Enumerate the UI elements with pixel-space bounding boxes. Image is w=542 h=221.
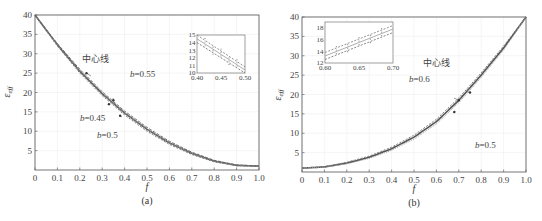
inset-y-tick-label: 12 (317, 59, 325, 67)
arrowhead-icon (458, 99, 460, 101)
x-tick-label: 0.6 (164, 173, 176, 183)
figure: 中心线b=0.45b=0.5b=0.5500.10.20.30.40.50.60… (0, 0, 542, 221)
y-tick-label: 15 (23, 107, 33, 117)
x-tick-label: 0.8 (209, 173, 221, 183)
y-axis-label: εeff (272, 88, 285, 100)
x-tick-label: 0.4 (119, 173, 131, 183)
y-tick-label: 35 (290, 31, 300, 41)
inset-plot: 0.600.650.7012141618 (317, 22, 400, 72)
arrowhead-icon (108, 103, 110, 105)
y-tick-label: 10 (23, 126, 33, 136)
x-tick-label: 0 (33, 173, 38, 183)
x-tick-label: 0.1 (52, 173, 63, 183)
x-tick-label: 0.9 (498, 175, 510, 185)
panel-b-plot: 中心线b=0.6b=0.500.10.20.30.40.50.60.70.80.… (272, 12, 532, 209)
panel-a-plot: 中心线b=0.45b=0.5b=0.5500.10.20.30.40.50.60… (1, 10, 265, 207)
y-tick-label: 30 (23, 49, 33, 59)
y-tick-label: 25 (290, 70, 300, 80)
y-tick-label: 25 (23, 68, 33, 78)
x-tick-label: 0.3 (97, 173, 109, 183)
annotation-label: b=0.5 (97, 130, 118, 140)
inset-y-tick-label: 12 (189, 54, 197, 62)
arrowhead-icon (119, 115, 121, 117)
x-tick-label: 1.0 (520, 175, 532, 185)
annotation-label: 中心线 (423, 57, 450, 68)
arrowhead-icon (453, 111, 455, 113)
y-tick-label: 40 (23, 10, 33, 20)
inset-x-tick-label: 0.45 (215, 74, 228, 82)
x-tick-label: 0.7 (453, 175, 465, 185)
annotation-label: b=0.6 (409, 74, 430, 84)
inset-x-tick-label: 0.50 (239, 74, 252, 82)
inset-plot: 0.400.450.50101112131415 (189, 31, 252, 82)
y-tick-label: 15 (290, 109, 300, 119)
inset-x-tick-label: 0.65 (353, 64, 366, 72)
arrowhead-icon (112, 99, 114, 101)
y-tick-label: 5 (28, 146, 33, 156)
y-tick-label: 10 (290, 128, 300, 138)
inset-y-tick-label: 15 (189, 31, 197, 39)
annotation-label: b=0.5 (475, 140, 496, 150)
inset-y-tick-label: 13 (189, 47, 197, 55)
panel-caption: (b) (408, 197, 420, 209)
y-tick-label: 5 (295, 148, 300, 158)
inset-y-tick-label: 14 (189, 39, 197, 47)
arrowhead-icon (85, 72, 87, 74)
y-tick-label: 30 (290, 51, 300, 61)
y-tick-label: 20 (290, 90, 300, 100)
x-tick-label: 0.6 (431, 175, 443, 185)
inset-y-tick-label: 10 (189, 69, 197, 77)
inset-y-tick-label: 18 (317, 24, 325, 32)
y-tick-label: 40 (290, 12, 300, 22)
inset-x-tick-label: 0.70 (387, 64, 400, 72)
x-tick-label: 0.3 (364, 175, 376, 185)
y-tick-label: 35 (23, 29, 33, 39)
inset-y-tick-label: 14 (317, 48, 325, 56)
x-tick-label: 0 (300, 175, 305, 185)
inset-y-tick-label: 16 (317, 36, 325, 44)
y-axis-label: εeff (1, 85, 14, 97)
x-tick-label: 0.8 (476, 175, 488, 185)
inset-y-tick-label: 11 (189, 62, 196, 70)
x-tick-label: 1.0 (253, 173, 265, 183)
panel-caption: (a) (141, 195, 152, 207)
arrowhead-icon (469, 91, 471, 93)
x-tick-label: 0.4 (386, 175, 398, 185)
annotation-label: b=0.55 (130, 69, 156, 79)
y-tick-label: 20 (23, 88, 33, 98)
x-tick-label: 0.1 (319, 175, 330, 185)
x-tick-label: 0.2 (341, 175, 352, 185)
annotation-label: 中心线 (82, 53, 109, 64)
x-tick-label: 0.7 (186, 173, 198, 183)
x-tick-label: 0.9 (231, 173, 243, 183)
x-tick-label: 0.2 (74, 173, 85, 183)
annotation-label: b=0.45 (80, 113, 106, 123)
